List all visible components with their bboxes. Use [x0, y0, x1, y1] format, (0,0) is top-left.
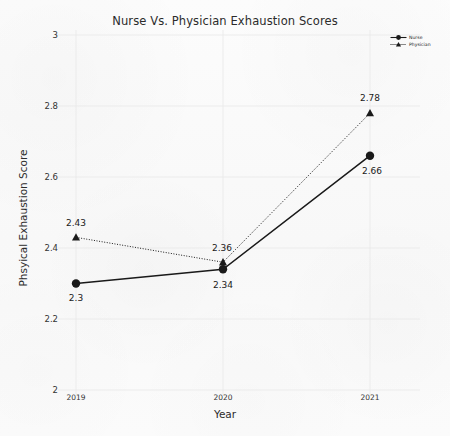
- y-axis-tick-label: 2.8: [18, 101, 58, 111]
- y-axis-tick-label: 3: [18, 30, 58, 40]
- chart-page: Nurse Vs. Physician Exhaustion Scores Ph…: [0, 0, 450, 436]
- chart-legend: Nurse Physician: [390, 34, 431, 48]
- legend-label-physician: Physician: [409, 41, 431, 48]
- x-axis-tick-label: 2020: [193, 393, 253, 402]
- y-axis-tick-label: 2.6: [18, 172, 58, 182]
- data-point-nurse: [72, 279, 80, 287]
- data-point-nurse: [219, 265, 227, 273]
- y-axis-tick-label: 2.4: [18, 243, 58, 253]
- data-label-nurse: 2.3: [69, 293, 83, 303]
- y-axis-tick-label: 2.2: [18, 314, 58, 324]
- legend-key-nurse-icon: [390, 34, 407, 41]
- data-label-physician: 2.43: [66, 218, 86, 228]
- legend-item-nurse: Nurse: [390, 34, 431, 41]
- data-point-physician: [72, 233, 80, 240]
- data-point-physician: [366, 109, 374, 116]
- data-label-nurse: 2.66: [362, 166, 382, 176]
- legend-item-physician: Physician: [390, 41, 431, 48]
- data-label-physician: 2.78: [360, 93, 380, 103]
- data-label-nurse: 2.34: [213, 280, 233, 290]
- x-axis-tick-label: 2019: [46, 393, 106, 402]
- data-point-nurse: [366, 152, 374, 160]
- data-label-physician: 2.36: [212, 243, 232, 253]
- legend-key-physician-icon: [390, 41, 407, 48]
- x-axis-tick-label: 2021: [340, 393, 400, 402]
